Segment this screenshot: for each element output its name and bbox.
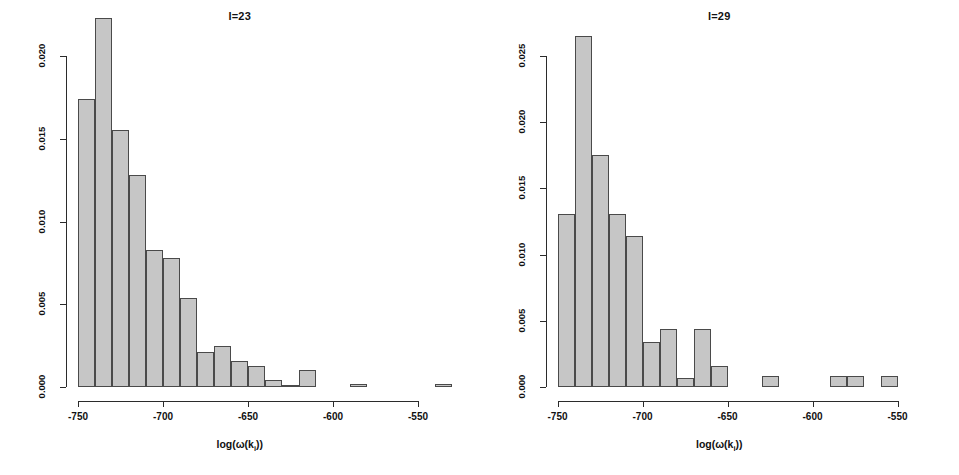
y-axis-tick [540, 321, 546, 322]
histogram-bar [626, 236, 643, 387]
histogram-bar [660, 329, 677, 387]
x-axis-label-suffix: )) [736, 438, 743, 450]
y-axis-tick [60, 387, 66, 388]
bars-container [78, 36, 448, 387]
x-axis-tick [333, 401, 334, 407]
histogram-bar [214, 346, 231, 387]
x-axis-tick-label: -650 [238, 411, 258, 422]
y-axis-line [66, 56, 67, 387]
histogram-bar [694, 329, 711, 387]
y-axis-tick [60, 222, 66, 223]
histogram-bar [265, 380, 282, 387]
histogram-bar [881, 376, 898, 387]
histogram-bar [592, 155, 609, 387]
panel-title: l=23 [0, 10, 480, 22]
y-axis-tick [60, 304, 66, 305]
histogram-figure: l=23 0.0000.0050.0100.0150.020-750-700-6… [0, 0, 959, 475]
x-axis-tick [418, 401, 419, 407]
y-axis-tick [60, 56, 66, 57]
x-axis-label-suffix: )) [256, 438, 263, 450]
x-axis-tick [78, 401, 79, 407]
x-axis-label-prefix: log(ω(k [216, 438, 253, 450]
histogram-bar [197, 352, 214, 387]
y-axis-tick-label: 0.025 [515, 36, 526, 76]
y-axis-tick-label: 0.005 [36, 284, 47, 324]
x-axis-tick-label: -650 [717, 411, 737, 422]
panel-l23: l=23 0.0000.0050.0100.0150.020-750-700-6… [0, 0, 480, 475]
plot-area-l23 [78, 36, 448, 387]
x-axis-tick [643, 401, 644, 407]
histogram-bar [643, 342, 660, 387]
y-axis-tick [60, 139, 66, 140]
x-axis-tick [813, 401, 814, 407]
plot-area-l29 [558, 36, 928, 387]
y-axis-tick-label: 0.020 [515, 102, 526, 142]
histogram-bar [762, 376, 779, 387]
histogram-bar [435, 384, 452, 387]
histogram-bar [609, 214, 626, 387]
histogram-bar [231, 361, 248, 387]
histogram-bar [163, 258, 180, 387]
panel-title: l=29 [480, 10, 959, 22]
x-axis-tick-label: -600 [323, 411, 343, 422]
histogram-bar [78, 99, 95, 387]
histogram-bar [180, 298, 197, 387]
bars-container [558, 36, 928, 387]
x-axis-tick [163, 401, 164, 407]
y-axis-tick-label: 0.020 [36, 36, 47, 76]
y-axis-tick [540, 56, 546, 57]
y-axis-tick-label: 0.010 [36, 201, 47, 241]
y-axis-tick-label: 0.015 [36, 118, 47, 158]
y-axis-tick-label: 0.010 [515, 234, 526, 274]
y-axis-tick-label: 0.015 [515, 168, 526, 208]
x-axis-label: log(ω(ki)) [480, 438, 959, 453]
y-axis-tick [540, 387, 546, 388]
x-axis-label-prefix: log(ω(k [696, 438, 733, 450]
histogram-bar [575, 36, 592, 387]
histogram-bar [282, 385, 299, 387]
x-axis-tick-label: -550 [887, 411, 907, 422]
y-axis-tick-label: 0.005 [515, 300, 526, 340]
histogram-bar [711, 366, 728, 387]
histogram-bar [830, 376, 847, 387]
x-axis-tick [558, 401, 559, 407]
panel-l29: l=29 0.0000.0050.0100.0150.0200.025-750-… [480, 0, 959, 475]
histogram-bar [847, 376, 864, 387]
x-axis-tick [248, 401, 249, 407]
x-axis-tick-label: -700 [153, 411, 173, 422]
y-axis-tick [540, 122, 546, 123]
x-axis-tick [898, 401, 899, 407]
histogram-bar [146, 250, 163, 387]
histogram-bar [129, 175, 146, 387]
x-axis-label: log(ω(ki)) [0, 438, 480, 453]
y-axis-tick-label: 0.000 [36, 367, 47, 407]
histogram-bar [299, 370, 316, 387]
x-axis-tick-label: -750 [68, 411, 88, 422]
x-axis-tick-label: -750 [547, 411, 567, 422]
histogram-bar [558, 214, 575, 387]
x-axis-tick-label: -550 [408, 411, 428, 422]
x-axis-tick [728, 401, 729, 407]
histogram-bar [677, 378, 694, 387]
y-axis-tick [540, 188, 546, 189]
histogram-bar [95, 18, 112, 387]
x-axis-tick-label: -600 [802, 411, 822, 422]
histogram-bar [248, 366, 265, 388]
y-axis-line [546, 56, 547, 387]
y-axis-tick [540, 255, 546, 256]
y-axis-tick-label: 0.000 [515, 367, 526, 407]
histogram-bar [112, 130, 129, 387]
x-axis-tick-label: -700 [632, 411, 652, 422]
histogram-bar [350, 384, 367, 387]
